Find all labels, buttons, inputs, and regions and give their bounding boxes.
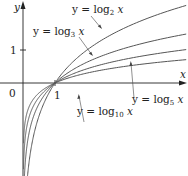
log-graph bbox=[0, 0, 188, 176]
annotation-log5: y = log5 x bbox=[132, 94, 184, 107]
annotation-log10-sub: 10 bbox=[115, 111, 124, 119]
x-axis-label: x bbox=[180, 69, 186, 80]
annotation-log2-pre: y = log bbox=[72, 3, 110, 15]
x-axis-arrow-icon bbox=[179, 81, 187, 86]
annotation-log5-post: x bbox=[174, 93, 183, 105]
annotation-log5-pre: y = log bbox=[132, 93, 170, 105]
leader-log3-arrow-icon bbox=[89, 52, 93, 56]
annotation-log10-post: x bbox=[124, 105, 133, 117]
y-axis-arrow-icon bbox=[21, 1, 26, 9]
annotation-log10: y = log10 x bbox=[77, 106, 133, 119]
axes bbox=[0, 1, 187, 176]
annotation-log2: y = log2 x bbox=[72, 4, 124, 17]
origin-label: 0 bbox=[9, 88, 16, 99]
annotation-log3-pre: y = log bbox=[33, 25, 71, 37]
leader-log10-arrow-icon bbox=[77, 94, 80, 99]
annotation-log3: y = log3 x bbox=[33, 26, 85, 39]
annotation-log3-post: x bbox=[75, 25, 84, 37]
y-axis-label: y bbox=[14, 2, 20, 13]
leader-log3 bbox=[79, 37, 92, 55]
y-tick-label-1: 1 bbox=[10, 45, 17, 56]
annotation-log2-post: x bbox=[114, 3, 123, 15]
annotation-log10-pre: y = log bbox=[77, 105, 115, 117]
leader-log5-arrow-icon bbox=[129, 61, 132, 66]
x-tick-label-1: 1 bbox=[54, 90, 61, 101]
